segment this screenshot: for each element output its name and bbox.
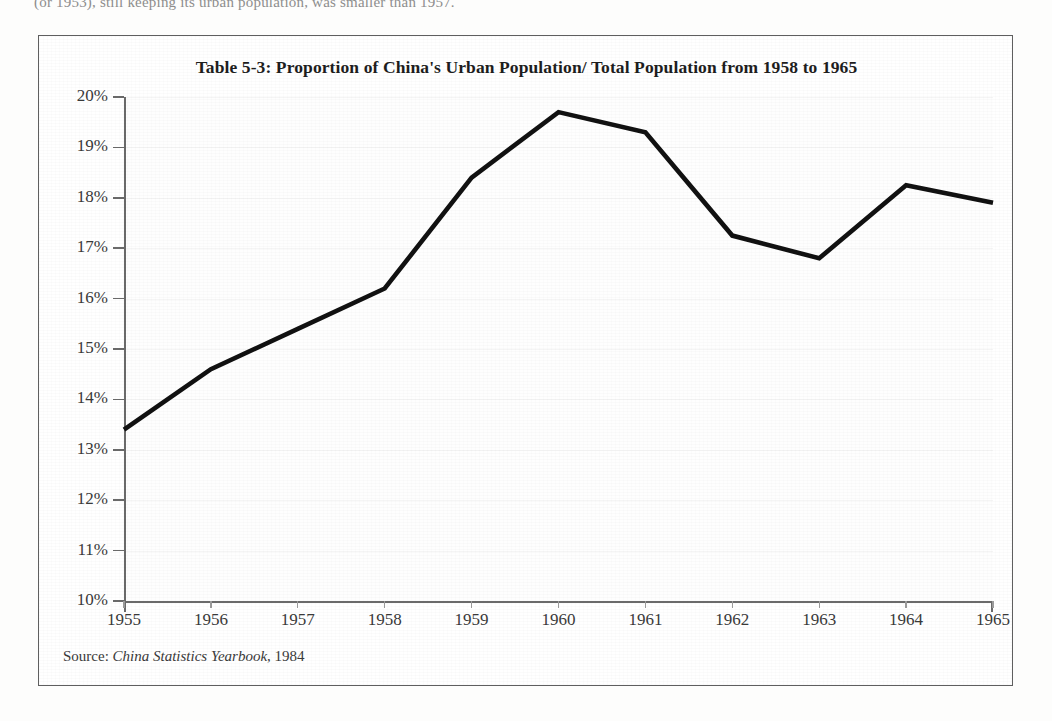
x-axis-tick-label: 1963 bbox=[802, 610, 836, 630]
source-title: China Statistics Yearbook bbox=[113, 648, 267, 664]
y-axis-tick-label: 10% bbox=[46, 590, 108, 610]
y-axis-tick-label: 19% bbox=[46, 136, 108, 156]
y-axis-tick bbox=[113, 348, 124, 350]
y-axis-tick bbox=[113, 298, 124, 300]
x-axis-tick-label: 1961 bbox=[628, 610, 662, 630]
x-axis-tick bbox=[297, 601, 298, 608]
x-axis-tick-label: 1960 bbox=[542, 610, 576, 630]
y-axis-tick bbox=[113, 147, 124, 149]
x-axis-tick-label: 1956 bbox=[194, 610, 228, 630]
x-axis-tick bbox=[905, 601, 906, 608]
page-root: (or 1953), still keeping its urban popul… bbox=[0, 0, 1052, 721]
x-axis-tick bbox=[123, 601, 124, 608]
y-axis-tick bbox=[113, 197, 124, 199]
x-axis-tick-label: 1957 bbox=[281, 610, 315, 630]
y-axis-tick-label: 11% bbox=[46, 540, 108, 560]
y-axis-tick-label: 15% bbox=[46, 338, 108, 358]
y-axis-tick bbox=[113, 96, 124, 98]
x-axis-tick-label: 1955 bbox=[107, 610, 141, 630]
x-axis-tick-label: 1962 bbox=[715, 610, 749, 630]
x-axis-tick bbox=[210, 601, 211, 608]
y-axis-tick-label: 13% bbox=[46, 439, 108, 459]
series-polyline bbox=[124, 112, 993, 430]
y-axis-tick bbox=[113, 499, 124, 501]
plot-area: 10%11%12%13%14%15%16%17%18%19%20% 195519… bbox=[124, 97, 993, 601]
page-cropped-text: (or 1953), still keeping its urban popul… bbox=[0, 0, 1052, 16]
y-axis-tick-label: 12% bbox=[46, 489, 108, 509]
y-axis-tick bbox=[113, 247, 124, 249]
x-axis-tick bbox=[384, 601, 385, 608]
x-axis-tick-label: 1959 bbox=[455, 610, 489, 630]
x-axis-tick-label: 1964 bbox=[889, 610, 923, 630]
source-prefix: Source: bbox=[63, 648, 109, 664]
y-axis-tick-label: 17% bbox=[46, 237, 108, 257]
x-axis-tick-label: 1965 bbox=[976, 610, 1010, 630]
page-cropped-text-label: (or 1953), still keeping its urban popul… bbox=[0, 0, 455, 11]
y-axis-tick bbox=[113, 399, 124, 401]
x-axis-tick bbox=[732, 601, 733, 608]
y-axis-tick bbox=[113, 449, 124, 451]
x-axis-tick bbox=[819, 601, 820, 608]
figure-frame: Table 5-3: Proportion of China's Urban P… bbox=[38, 35, 1013, 686]
chart-title: Table 5-3: Proportion of China's Urban P… bbox=[39, 57, 1014, 78]
source-note: Source: China Statistics Yearbook, 1984 bbox=[63, 648, 305, 665]
x-axis-tick bbox=[645, 601, 646, 608]
x-axis-tick bbox=[992, 601, 993, 608]
source-year: , 1984 bbox=[267, 648, 305, 664]
x-axis-tick-label: 1958 bbox=[368, 610, 402, 630]
x-axis-tick bbox=[558, 601, 559, 608]
y-axis-tick-label: 16% bbox=[46, 288, 108, 308]
x-axis-labels: 1955195619571958195919601961196219631964… bbox=[124, 610, 993, 636]
x-axis-tick bbox=[471, 601, 472, 608]
data-series-line bbox=[124, 97, 993, 601]
y-axis-tick-label: 18% bbox=[46, 187, 108, 207]
y-axis-tick bbox=[113, 550, 124, 552]
y-axis-tick-label: 14% bbox=[46, 388, 108, 408]
y-axis-tick-label: 20% bbox=[46, 86, 108, 106]
